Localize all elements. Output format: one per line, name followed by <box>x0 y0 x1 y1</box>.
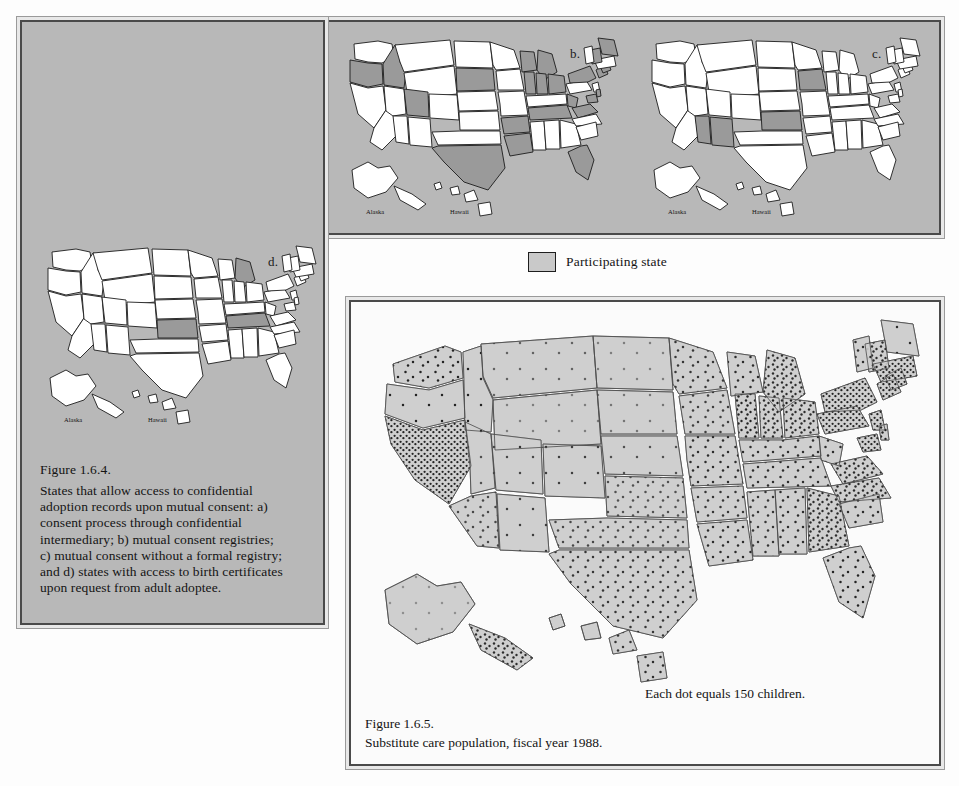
state-AR <box>199 324 228 342</box>
state-WI <box>520 51 537 72</box>
figure-164-caption-body: States that allow access to confidential… <box>40 483 316 596</box>
state-VT <box>584 46 594 64</box>
state-NY <box>870 66 898 83</box>
state-NV <box>82 294 104 324</box>
state-MS <box>832 121 848 150</box>
map-c-states <box>652 38 920 216</box>
state-MN <box>792 42 822 70</box>
state-OR <box>350 60 383 87</box>
state-AZ <box>91 324 107 352</box>
state-HI-i2 <box>148 394 158 403</box>
map-b-alaska-label: Alaska <box>366 208 384 215</box>
state-VT <box>886 46 896 64</box>
state-TN <box>528 105 572 120</box>
map-c-letter: c. <box>872 46 882 62</box>
state-HI-i1 <box>434 182 442 190</box>
state-WI <box>822 51 839 72</box>
state-SD <box>154 276 193 299</box>
state-NE <box>155 299 196 319</box>
state-CO <box>429 94 459 120</box>
state-AK <box>352 162 398 198</box>
state-NV <box>686 86 708 116</box>
state-IN <box>536 73 548 94</box>
dots-midwest <box>669 338 831 488</box>
dot-legend-note: Each dot equals 150 children. <box>645 686 805 702</box>
state-IL <box>826 72 838 94</box>
state-DE <box>596 89 601 97</box>
map-b-letter: b. <box>570 46 580 62</box>
figure-164-panel: d. Alaska Hawaii Figure 1.6.4. States th… <box>16 16 329 629</box>
map-d-svg <box>36 240 324 436</box>
state-NM <box>106 325 130 355</box>
participating-state-legend: Participating state <box>528 252 667 272</box>
state-CO <box>127 302 157 328</box>
state-AK-tail <box>394 186 426 210</box>
state-UT <box>102 297 127 325</box>
state-SD <box>758 68 797 91</box>
state-HI-i3 <box>464 190 478 202</box>
state-OH <box>850 74 868 94</box>
map-d: d. Alaska Hawaii <box>36 240 324 436</box>
state-AR <box>803 116 832 134</box>
state-AK-tail <box>696 186 728 210</box>
caption-line-6: and d) states with access to birth certi… <box>40 564 316 580</box>
state-MD <box>586 94 598 103</box>
state-MD <box>888 94 900 103</box>
state-IA <box>798 69 826 90</box>
state-VT <box>282 254 292 272</box>
state-MD <box>284 302 296 311</box>
state-TN <box>830 105 874 120</box>
map-b-states <box>350 38 618 216</box>
state-OH <box>548 74 566 94</box>
state-OK <box>432 131 501 145</box>
state-WV <box>567 94 578 108</box>
state-NE <box>457 91 498 111</box>
state-SD <box>456 68 495 91</box>
map-d-letter: d. <box>268 254 278 270</box>
caption-line-5: c) mutual consent without a formal regis… <box>40 548 316 564</box>
state-KS <box>459 111 500 130</box>
caption-line-3: consent process through confidential <box>40 515 316 531</box>
state-MO <box>498 91 528 116</box>
state-HI-i1 <box>736 182 744 190</box>
state-LA <box>806 133 835 156</box>
state-IA <box>496 69 524 90</box>
state-AZ <box>695 116 711 144</box>
state-HI-i2 <box>752 186 762 195</box>
figure-165-caption-line-1: Figure 1.6.5. <box>365 714 602 733</box>
state-MO <box>196 299 226 324</box>
state-IL <box>524 72 536 94</box>
state-IN <box>838 73 850 94</box>
state-MN <box>188 250 218 278</box>
state-KS <box>157 319 198 338</box>
state-HI-i2 <box>450 186 460 195</box>
state-MS <box>228 329 244 358</box>
state-AL <box>242 328 258 357</box>
state-FL <box>266 353 292 388</box>
map-c-svg <box>640 32 928 228</box>
caption-line-7: upon request from adult adoptee. <box>40 580 316 596</box>
state-HI-big <box>176 410 190 424</box>
state-NM <box>710 117 734 147</box>
dot-density-map-svg <box>357 308 935 708</box>
map-d-hawaii-label: Hawaii <box>148 416 167 423</box>
state-HI-i1 <box>132 390 140 398</box>
map-b-svg <box>338 32 626 228</box>
state-NE <box>759 91 800 111</box>
state-HI-i3 <box>162 398 176 410</box>
state-KS <box>761 111 802 130</box>
state-FL <box>870 145 896 180</box>
state-MN <box>490 42 520 70</box>
state-AZ <box>393 116 409 144</box>
state-TX <box>734 145 807 190</box>
state-TX <box>130 353 203 398</box>
figure-165-caption: Figure 1.6.5. Substitute care population… <box>365 714 602 752</box>
state-LA <box>202 341 231 364</box>
dot-density-map <box>357 308 935 708</box>
figure-165-panel-inner: Each dot equals 150 children. Figure 1.6… <box>349 300 941 766</box>
legend-swatch-icon <box>528 252 556 272</box>
state-FL <box>568 145 594 180</box>
state-UT <box>404 89 429 117</box>
caption-line-2: adoption records upon mutual consent: a) <box>40 499 316 515</box>
state-DE <box>898 89 903 97</box>
